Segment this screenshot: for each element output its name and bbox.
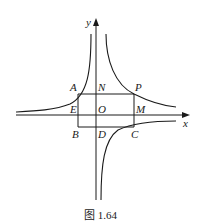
point-E: E	[69, 103, 77, 115]
point-B: B	[72, 128, 79, 140]
point-N: N	[97, 81, 106, 93]
point-A: A	[69, 81, 77, 93]
x-axis-label: x	[182, 117, 188, 129]
figure-diagram: y x A N P E O M B D C 图 1.64	[0, 0, 202, 224]
figure-caption: 图 1.64	[84, 209, 118, 221]
curve-quadrant-4	[101, 121, 176, 200]
point-P: P	[134, 81, 142, 93]
point-M: M	[135, 103, 146, 115]
curve-quadrant-2	[16, 34, 91, 112]
point-C: C	[131, 128, 139, 140]
y-axis-arrow-icon	[93, 18, 99, 26]
point-D: D	[97, 128, 106, 140]
point-O: O	[98, 103, 106, 115]
curve-quadrant-1	[106, 34, 176, 107]
y-axis-label: y	[85, 16, 91, 28]
